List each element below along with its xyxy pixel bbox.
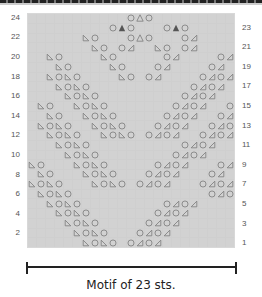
right-decrease-icon [172,131,180,139]
yarn-over-icon [82,141,90,149]
yarn-over-icon [172,122,180,130]
yarn-over-icon [208,170,216,178]
left-decrease-icon [82,151,90,159]
right-decrease-icon [154,170,162,178]
yarn-over-icon [181,112,189,120]
yarn-over-icon [100,180,108,188]
chart-cell [181,219,189,228]
chart-cell [181,238,189,247]
chart-cell [109,63,117,72]
chart-cell [91,121,99,130]
yarn-over-icon [199,131,207,139]
chart-cell [199,219,207,228]
chart-cell [181,170,189,179]
chart-cell [82,24,90,33]
chart-cell [73,53,81,62]
left-decrease-icon [118,131,126,139]
chart-cell [181,131,189,140]
chart-cell [28,53,36,62]
left-decrease-icon [82,219,90,227]
yarn-over-icon [163,53,171,61]
chart-cell [199,229,207,238]
chart-cell [208,63,216,72]
chart-cell [226,43,234,52]
right-decrease-icon [208,92,216,100]
chart-cell [118,121,126,130]
chart-cell [118,180,126,189]
chart-cell [226,229,234,238]
chart-cell [28,170,36,179]
yarn-over-icon [55,200,63,208]
right-decrease-icon [226,53,234,61]
left-decrease-icon [154,44,162,52]
left-decrease-icon [55,63,63,71]
chart-cell [109,238,117,247]
chart-cell [82,92,90,101]
right-decrease-icon [199,151,207,159]
row-label-left: 14 [6,112,20,120]
bracket-right-tick [235,262,237,274]
right-decrease-icon [163,161,171,169]
yarn-over-icon [73,131,81,139]
chart-cell [199,92,207,101]
chart-cell [127,121,135,130]
right-decrease-icon [199,83,207,91]
row-label-right: 15 [242,102,256,110]
chart-cell [190,73,198,82]
chart-cell [109,141,117,150]
chart-cell [217,121,225,130]
chart-cell [64,102,72,111]
chart-cell [91,73,99,82]
chart-cell [181,53,189,62]
yarn-over-icon [190,102,198,110]
chart-cell [127,102,135,111]
yarn-over-icon [208,83,216,91]
yarn-over-icon [55,53,63,61]
chart-cell [37,131,45,140]
chart-cell [118,112,126,121]
chart-cell [172,14,180,23]
chart-cell [127,131,135,140]
chart-cell [37,229,45,238]
row-label-right: 1 [242,239,256,247]
chart-cell [73,73,81,82]
chart-cell [163,112,171,121]
chart-cell [226,170,234,179]
chart-cell [163,34,171,43]
chart-cell [28,14,36,23]
chart-cell [136,24,144,33]
chart-cell [190,53,198,62]
yarn-over-icon [109,239,117,247]
right-decrease-icon [226,112,234,120]
top-rule-shadow [0,3,262,5]
chart-cell [91,43,99,52]
chart-cell [109,131,117,140]
yarn-over-icon [118,44,126,52]
chart-cell [28,34,36,43]
yarn-over-icon [136,229,144,237]
chart-cell [109,112,117,121]
chart-cell [154,14,162,23]
chart-cell [91,34,99,43]
left-decrease-icon [100,239,108,247]
chart-cell [208,190,216,199]
chart-cell [118,24,126,33]
chart-cell [145,238,153,247]
chart-cell [55,53,63,62]
chart-cell [127,73,135,82]
chart-cell [190,238,198,247]
chart-cell [127,238,135,247]
right-decrease-icon [217,170,225,178]
chart-cell [145,141,153,150]
left-decrease-icon [37,190,45,198]
chart-cell [199,14,207,23]
chart-cell [82,14,90,23]
chart-cell [190,82,198,91]
chart-cell [100,24,108,33]
chart-cell [46,160,54,169]
yarn-over-icon [64,83,72,91]
chart-cell [145,43,153,52]
chart-cell [37,180,45,189]
chart-cell [118,63,126,72]
chart-cell [163,238,171,247]
